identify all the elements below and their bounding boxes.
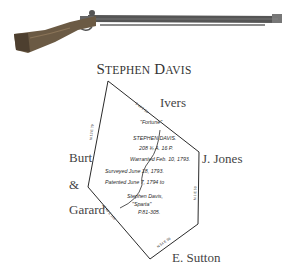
svg-text:N 54 E 36: N 54 E 36 <box>156 237 171 249</box>
svg-text:Surveyed June 18, 1793.: Surveyed June 18, 1793. <box>105 168 164 174</box>
neighbor-north: Ivers <box>160 95 186 111</box>
svg-text:N 12 E 79: N 12 E 79 <box>89 124 95 140</box>
svg-text:"Sparta": "Sparta" <box>132 201 152 207</box>
svg-text:208 ¾ A. 16 P.: 208 ¾ A. 16 P. <box>138 145 173 151</box>
svg-text:"Fortune": "Fortune" <box>140 119 163 125</box>
survey-plat: "Fortune" STEPHEN DAVIS. 208 ¾ A. 16 P. … <box>0 76 288 267</box>
svg-text:S 48 E 50: S 48 E 50 <box>134 102 149 115</box>
svg-text:Warranted Feb. 10, 1793.: Warranted Feb. 10, 1793. <box>130 156 190 162</box>
svg-text:N 1 E 50: N 1 E 50 <box>193 186 197 200</box>
svg-text:Patented June 7, 1794 to: Patented June 7, 1794 to <box>105 179 164 185</box>
rifle-image <box>0 0 288 62</box>
neighbor-west-3: Garard <box>69 202 105 218</box>
neighbor-west-1: Burt <box>69 150 92 166</box>
svg-text:Stephen Davis,: Stephen Davis, <box>127 193 163 199</box>
neighbor-west-2: & <box>69 177 79 193</box>
svg-text:P.81-305.: P.81-305. <box>138 209 160 215</box>
neighbor-south: E. Sutton <box>172 250 220 266</box>
svg-text:STEPHEN DAVIS.: STEPHEN DAVIS. <box>133 135 177 141</box>
neighbor-east: J. Jones <box>202 151 242 167</box>
